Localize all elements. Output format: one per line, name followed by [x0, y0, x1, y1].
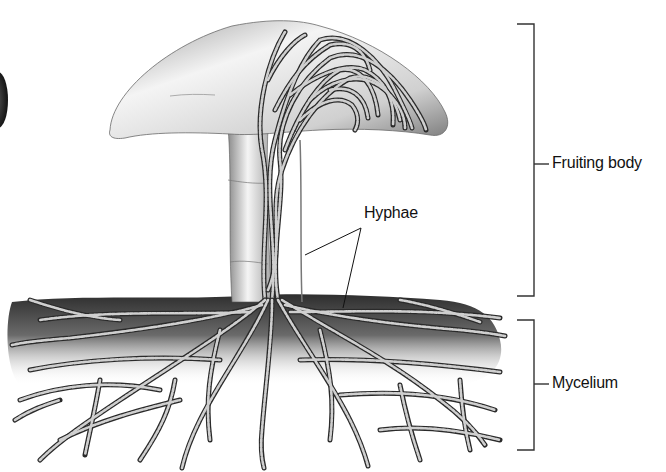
hyphae-label: Hyphae: [364, 204, 418, 222]
edge-object: [0, 72, 8, 128]
mushroom-diagram: [0, 0, 666, 472]
stem-outline: [300, 140, 302, 302]
mycelium-bracket: [517, 320, 549, 450]
fruiting-body-label: Fruiting body: [552, 154, 642, 172]
fruiting-body-bracket: [517, 24, 549, 296]
mycelium-label: Mycelium: [552, 374, 618, 392]
